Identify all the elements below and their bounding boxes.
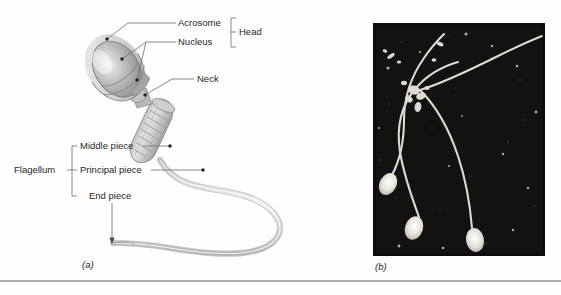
- label-nucleus: Nucleus: [178, 36, 213, 47]
- middle-piece-anchor-dot: [168, 144, 171, 147]
- neck-anchor-dot: [143, 93, 146, 96]
- label-flagellum: Flagellum: [14, 164, 55, 175]
- label-middle-piece: Middle piece: [80, 140, 133, 151]
- middle-piece-body: [125, 95, 177, 168]
- label-head: Head: [239, 26, 262, 37]
- figure-canvas: Acrosome Nucleus Head Neck Middle piece …: [0, 0, 561, 295]
- label-neck: Neck: [197, 73, 219, 84]
- nucleus-anchor-dot-2: [135, 78, 138, 81]
- flagellum-bracket: [67, 146, 77, 196]
- caption-panel-b: (b): [375, 261, 387, 272]
- nucleus-anchor-dot-1: [120, 57, 123, 60]
- principal-piece-anchor-dot: [201, 168, 204, 171]
- label-principal-piece: Principal piece: [80, 164, 142, 175]
- panel-b-micrograph: (b): [373, 23, 545, 272]
- acrosome-anchor-dot: [105, 37, 108, 40]
- caption-panel-a: (a): [82, 259, 94, 270]
- label-end-piece: End piece: [89, 190, 131, 201]
- figure-container: Acrosome Nucleus Head Neck Middle piece …: [0, 0, 561, 295]
- panel-a-illustration: Acrosome Nucleus Head Neck Middle piece …: [14, 17, 280, 270]
- label-acrosome: Acrosome: [178, 17, 221, 28]
- head-bracket: [231, 18, 236, 47]
